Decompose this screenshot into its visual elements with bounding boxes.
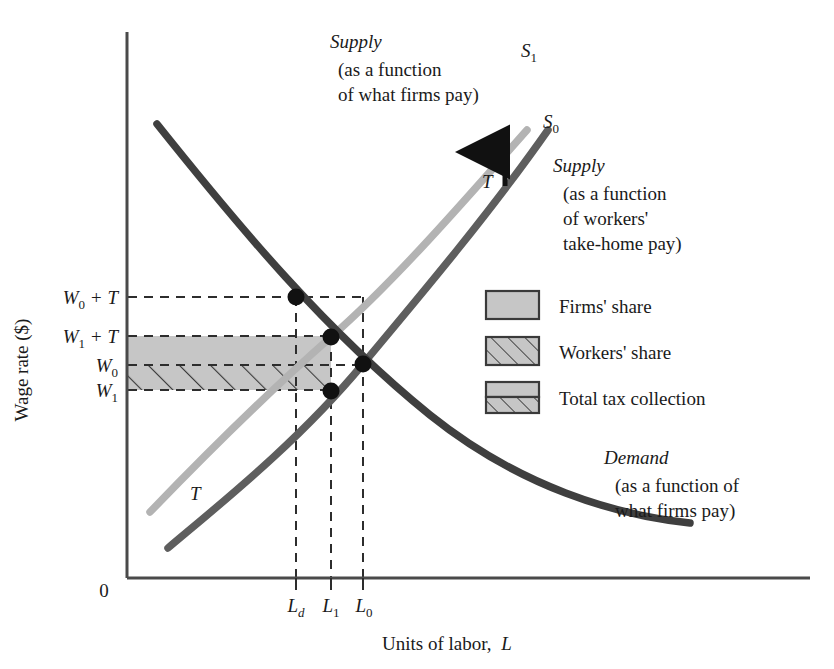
- xtl0-sub: d: [298, 605, 305, 620]
- supply-s0-line2: (as a function: [563, 183, 667, 205]
- tax-gap-label: T: [190, 483, 202, 504]
- legend-item-workers-share[interactable]: Workers' share: [486, 337, 671, 365]
- point-demand-at-w0plusT: [288, 289, 305, 306]
- x-axis-title: Units of labor, L: [382, 633, 512, 654]
- y-axis-title: Wage rate ($): [11, 319, 33, 422]
- demand-line2: (as a function of: [615, 475, 740, 497]
- tax-shift-label: T: [482, 171, 494, 192]
- legend-swatch-firms-share: [486, 291, 539, 319]
- legend-item-firms-share[interactable]: Firms' share: [486, 291, 652, 319]
- x-axis-title-var: L: [500, 633, 512, 654]
- s1-sub: 1: [531, 50, 538, 65]
- ytl1-suffix: + T: [85, 326, 119, 347]
- x-axis-title-text: Units of labor,: [382, 633, 492, 654]
- point-pre-tax-equilibrium: [355, 356, 372, 373]
- xtl0-main: L: [286, 595, 298, 616]
- supply-s0-line3: of workers': [563, 208, 648, 229]
- s1-main: S: [521, 40, 531, 61]
- supply-s1-line2: (as a function: [338, 59, 442, 81]
- point-post-tax-firms-pay: [323, 329, 340, 346]
- supply-s0-title: Supply: [553, 155, 605, 176]
- xtl2-sub: 0: [366, 605, 373, 620]
- legend-swatch-total-tax-top: [486, 382, 539, 397]
- xtl2-main: L: [354, 595, 366, 616]
- xtl1-sub: 1: [333, 605, 340, 620]
- legend-label-workers-share: Workers' share: [559, 342, 671, 363]
- ytl2-sub: 0: [112, 365, 119, 380]
- origin-label: 0: [99, 580, 109, 601]
- s0-main: S: [543, 111, 553, 132]
- s0-sub: 0: [553, 121, 560, 136]
- legend-label-firms-share: Firms' share: [559, 296, 652, 317]
- ytl0-suffix: + T: [85, 287, 119, 308]
- ytl3-sub: 1: [112, 390, 119, 405]
- legend-swatch-workers-share: [486, 337, 539, 365]
- supply-s0-line4: take-home pay): [563, 233, 682, 255]
- supply-s1-title: Supply: [330, 31, 382, 52]
- supply-demand-tax-diagram: Wage rate ($) Units of labor, L 0 W0 + T…: [0, 0, 834, 669]
- legend-label-total-tax-collection: Total tax collection: [559, 388, 706, 409]
- supply-s1-line3: of what firms pay): [338, 84, 479, 106]
- legend-swatch-total-tax-bottom: [486, 397, 539, 413]
- demand-title: Demand: [603, 447, 669, 468]
- point-post-tax-workers-receive: [323, 383, 340, 400]
- demand-line3: what firms pay): [615, 500, 735, 522]
- xtl1-main: L: [321, 595, 333, 616]
